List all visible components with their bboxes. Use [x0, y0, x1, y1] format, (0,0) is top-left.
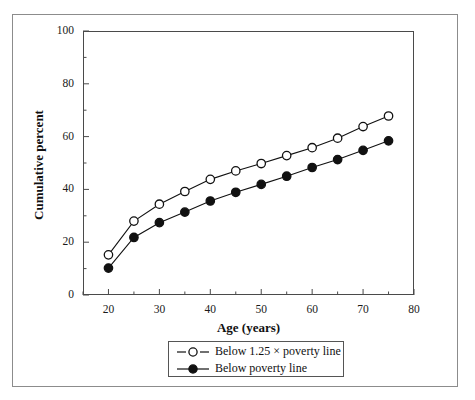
x-tick-label-40: 40	[190, 304, 230, 316]
y-tick-label-0: 0	[0, 289, 74, 301]
x-tick-label-30: 30	[139, 304, 179, 316]
x-tick-label-80: 80	[394, 304, 434, 316]
x-tick-label-50: 50	[241, 304, 281, 316]
legend-label-1: Below poverty line	[215, 361, 307, 376]
chart-legend: Below 1.25 × poverty line Below poverty …	[168, 341, 344, 377]
x-tick-label-60: 60	[292, 304, 332, 316]
chart-figure: 020406080100 20304050607080 Cumulative p…	[0, 0, 475, 400]
plot-area-frame	[83, 31, 414, 295]
x-axis-title-text: Age (years)	[217, 320, 280, 335]
legend-label-0: Below 1.25 × poverty line	[215, 344, 341, 359]
legend-marker-open-circle-icon	[176, 344, 210, 360]
legend-marker-filled-circle-icon	[176, 361, 210, 377]
legend-item-below-125-poverty-line: Below 1.25 × poverty line	[169, 343, 343, 360]
y-axis-title: Cumulative percent	[28, 75, 50, 255]
legend-item-below-poverty-line: Below poverty line	[169, 360, 343, 377]
y-tick-label-100: 100	[0, 25, 74, 37]
y-axis-title-text: Cumulative percent	[31, 110, 47, 220]
x-tick-label-70: 70	[343, 304, 383, 316]
x-tick-label-20: 20	[88, 304, 128, 316]
x-axis-title: Age (years)	[83, 320, 414, 336]
